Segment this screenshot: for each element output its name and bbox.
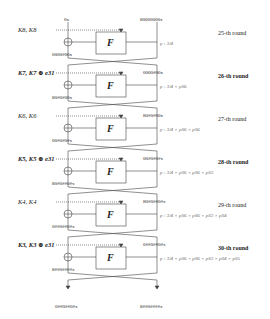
output-left: 0##0##0#x bbox=[55, 304, 78, 309]
probability-label: p : 3/4 × pS6 × pS6 × pS3 × pS4 bbox=[160, 213, 227, 218]
right-input-value: 00#0#0#x bbox=[143, 156, 163, 161]
f-function-box: F bbox=[107, 38, 114, 48]
f-function-box: F bbox=[107, 81, 114, 91]
round-key-label: K3, K3 ⊕ e31 bbox=[18, 242, 55, 249]
round-key-label: K4, K4 bbox=[18, 199, 36, 206]
right-input-value: 0##0##0#x bbox=[143, 242, 166, 247]
left-output-value: 00#0#0#x bbox=[52, 138, 72, 143]
f-function-box: F bbox=[107, 167, 114, 177]
probability-label: p : 3/4 bbox=[160, 41, 173, 46]
round-label: 30-th round bbox=[218, 245, 248, 251]
round-label: 27-th round bbox=[218, 116, 246, 122]
probability-label: p : 3/4 × pS6 bbox=[160, 84, 186, 89]
round-key-label: K5, K5 ⊕ e31 bbox=[18, 156, 55, 163]
left-output-value: 0000#00x bbox=[52, 52, 72, 57]
right-input-value: 80#0#00x bbox=[143, 113, 163, 118]
probability-label: p : 3/4 × pS6 × pS6 × pS3 bbox=[160, 170, 213, 175]
right-input-value: 0000#00x bbox=[143, 70, 163, 75]
left-output-value: 80#0#00x bbox=[52, 95, 72, 100]
f-function-box: F bbox=[107, 253, 114, 263]
round-label: 25-th round bbox=[218, 30, 246, 36]
round-label: 28-th round bbox=[218, 159, 248, 165]
left-output-value: 80#0##0#x bbox=[52, 181, 75, 186]
left-output-value: 8##0####x bbox=[52, 267, 75, 272]
top-left-input: 0x bbox=[64, 17, 69, 22]
round-key-label: K6, K6 bbox=[18, 113, 36, 120]
f-function-box: F bbox=[107, 210, 114, 220]
output-right: 8##0####x bbox=[140, 304, 163, 309]
round-key-label: K8, K8 bbox=[18, 27, 36, 34]
round-label: 26-th round bbox=[218, 73, 248, 79]
round-key-label: K7, K7 ⊕ e31 bbox=[18, 70, 55, 77]
round-label: 29-th round bbox=[218, 202, 246, 208]
top-right-input: 80000000x bbox=[140, 17, 163, 22]
probability-label: p : 3/4 × pS6 × pS6 × pS3 × pS4 × pS5 bbox=[160, 256, 240, 261]
left-output-value: 0##0##0#x bbox=[52, 224, 75, 229]
right-input-value: 80#0##0#x bbox=[143, 199, 166, 204]
f-function-box: F bbox=[107, 124, 114, 134]
probability-label: p : 3/4 × pS6 × pS6 bbox=[160, 127, 200, 132]
